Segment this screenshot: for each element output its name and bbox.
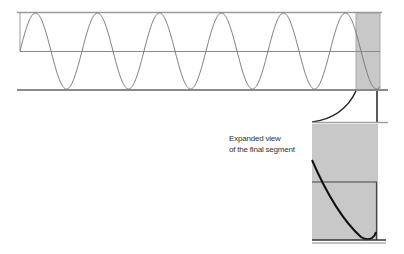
caption-line-1: Expanded view xyxy=(229,133,295,144)
zoom-connector xyxy=(312,91,388,123)
waveform-diagram xyxy=(0,0,404,254)
expanded-view-caption: Expanded view of the final segment xyxy=(229,133,295,155)
main-plot xyxy=(17,12,388,90)
expanded-view xyxy=(312,124,386,243)
connector-curve xyxy=(312,91,356,122)
caption-line-2: of the final segment xyxy=(229,144,295,155)
